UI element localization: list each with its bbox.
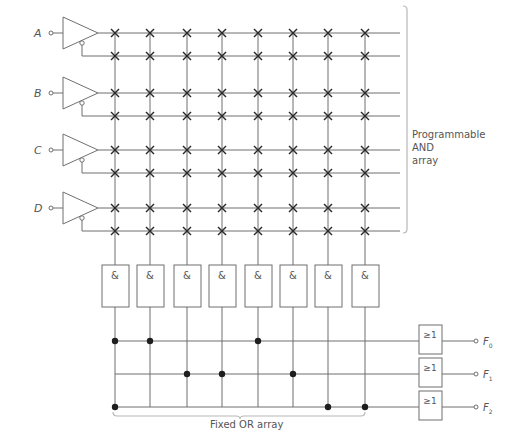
and-gate-1: & [137,265,164,307]
input-label-b: B [34,87,42,100]
inverter-bubble-icon [80,101,84,105]
input-label-a: A [33,27,42,40]
or-gate-symbol: ≥1 [423,363,436,373]
connection-dot-icon [112,338,118,344]
and-gate-symbol: & [289,270,297,281]
connection-dot-icon [147,338,153,344]
or-array-brace [113,412,365,419]
or-gate-symbol: ≥1 [423,330,436,340]
inverter-bubble-icon [80,216,84,220]
output-terminal-icon [474,372,478,376]
connection-dot-icon [325,404,331,410]
and-gates: &&&&&&&& [102,265,379,307]
pla-diagram: ABCD &&&&&&&& ≥1F0≥1F1≥1F2 Programmable … [0,0,506,446]
and-gate-symbol: & [254,270,262,281]
and-gate-7: & [352,265,379,307]
and-gate-symbol: & [183,270,191,281]
connection-dot-icon [184,371,190,377]
and-gate-symbol: & [218,270,226,281]
output-terminal-icon [474,339,478,343]
output-subscript: 0 [489,342,493,349]
connection-dot-icon [362,404,368,410]
input-b: B [34,77,98,116]
input-label-d: D [34,202,42,215]
and-array-label-line1: Programmable [412,129,485,140]
and-gate-4: & [245,265,272,307]
connection-dot-icon [290,371,296,377]
output-terminal-icon [474,405,478,409]
connection-dot-icon [112,404,118,410]
or-gate-symbol: ≥1 [423,396,436,406]
input-a: A [33,17,98,56]
output-subscript: 2 [489,408,493,415]
input-terminal-icon [49,91,53,95]
input-label-c: C [34,144,42,157]
fixed-or-array: ≥1F0≥1F1≥1F2 [112,307,493,420]
or-array-label: Fixed OR array [210,419,283,430]
connection-dot-icon [255,338,261,344]
output-subscript: 1 [489,375,493,382]
input-terminal-icon [49,206,53,210]
output-label: F1 [483,369,493,382]
output-f1: ≥1F1 [115,358,493,387]
input-terminal-icon [49,31,53,35]
and-gate-symbol: & [361,270,369,281]
output-label: F0 [483,336,493,349]
input-buffers: ABCD [33,17,98,231]
and-array-label-line2: AND [412,142,434,153]
input-d: D [34,192,98,231]
inverter-bubble-icon [80,41,84,45]
and-gate-symbol: & [111,270,119,281]
output-label: F2 [483,402,493,415]
input-terminal-icon [49,148,53,152]
inverter-bubble-icon [80,158,84,162]
and-gate-symbol: & [324,270,332,281]
and-array-label-line3: array [412,155,438,166]
output-f0: ≥1F0 [112,325,493,354]
connection-dot-icon [219,371,225,377]
input-c: C [34,134,98,173]
programmable-and-array [82,29,400,265]
and-gate-symbol: & [146,270,154,281]
and-gate-0: & [102,265,129,307]
and-array-brace [403,6,407,233]
and-gate-3: & [209,265,236,307]
and-gate-2: & [174,265,201,307]
and-gate-6: & [315,265,342,307]
and-gate-5: & [280,265,307,307]
